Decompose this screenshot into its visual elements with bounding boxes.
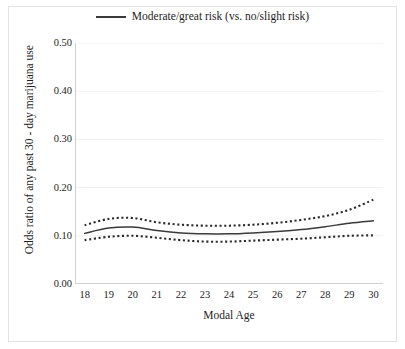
gridlines bbox=[75, 43, 383, 284]
x-axis-tick-label: 22 bbox=[168, 290, 194, 301]
series-line-main bbox=[85, 221, 374, 234]
x-axis-tick-label: 19 bbox=[96, 290, 122, 301]
x-axis-tick-label: 30 bbox=[360, 290, 386, 301]
y-axis-tick-label: 0.00 bbox=[40, 279, 72, 290]
y-axis-title: Odds ratio of any past 30 - day marijuan… bbox=[24, 34, 36, 266]
x-axis-title: Modal Age bbox=[75, 310, 383, 322]
x-axis-tick-label: 20 bbox=[120, 290, 146, 301]
y-axis-tick-label: 0.40 bbox=[40, 86, 72, 97]
x-axis-tick-label: 27 bbox=[288, 290, 314, 301]
y-axis-tick-label: 0.30 bbox=[40, 134, 72, 145]
legend-line-swatch-icon bbox=[96, 16, 126, 18]
y-axis-tick-label: 0.50 bbox=[40, 38, 72, 49]
x-axis-tick-label: 25 bbox=[240, 290, 266, 301]
plot-svg bbox=[75, 43, 383, 284]
figure-container: Moderate/great risk (vs. no/slight risk)… bbox=[0, 0, 405, 349]
x-axis-tick-label: 23 bbox=[192, 290, 218, 301]
x-axis-tick-label: 18 bbox=[72, 290, 98, 301]
x-axis-tick-label: 28 bbox=[312, 290, 338, 301]
y-axis-tick-label: 0.20 bbox=[40, 182, 72, 193]
x-axis-tick-label: 26 bbox=[264, 290, 290, 301]
y-axis-tick-label: 0.10 bbox=[40, 231, 72, 242]
legend-entry-label: Moderate/great risk (vs. no/slight risk) bbox=[132, 11, 309, 23]
x-axis-tick-label: 24 bbox=[216, 290, 242, 301]
series-line-confidence-band bbox=[85, 200, 374, 226]
x-axis-tick-labels: 18192021222324252627282930 bbox=[0, 290, 405, 304]
x-axis-tick-label: 21 bbox=[144, 290, 170, 301]
axis-lines bbox=[75, 43, 383, 284]
plot-area bbox=[75, 43, 383, 284]
x-axis-tick-label: 29 bbox=[336, 290, 362, 301]
